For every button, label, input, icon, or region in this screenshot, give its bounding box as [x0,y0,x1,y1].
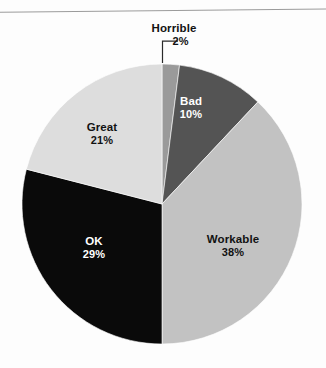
slice-name-great: Great [62,120,142,134]
slice-name-horrible: Horrible [131,21,217,35]
slice-label-bad: Bad 10% [160,94,222,121]
slice-name-bad: Bad [160,94,222,108]
slice-value-workable: 38% [190,246,276,259]
slice-value-great: 21% [62,134,142,147]
slice-value-horrible: 2% [144,35,217,48]
slice-name-workable: Workable [190,232,276,246]
slice-value-ok: 29% [58,248,130,261]
slice-label-ok: OK 29% [58,234,130,261]
slice-name-ok: OK [58,234,130,248]
slice-value-bad: 10% [160,108,222,121]
slice-label-great: Great 21% [62,120,142,147]
slice-label-workable: Workable 38% [190,232,276,259]
pie-chart-figure: Horrible 2% Bad 10% Workable 38% OK 29% … [0,0,326,368]
slice-label-horrible: Horrible 2% [131,21,217,48]
